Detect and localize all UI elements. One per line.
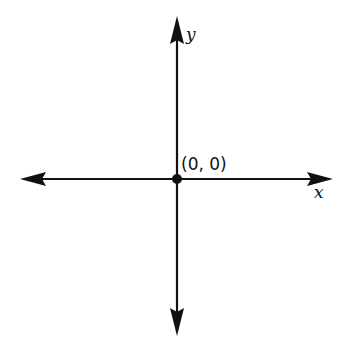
y-axis-up-arrow-icon	[170, 16, 184, 44]
coordinate-plane: y x (0, 0)	[0, 0, 349, 349]
y-axis-label: y	[185, 24, 196, 44]
origin-dot	[172, 174, 182, 184]
origin-label: (0, 0)	[181, 154, 227, 174]
axes-svg: y x (0, 0)	[0, 0, 349, 349]
y-axis-down-arrow-icon	[170, 308, 184, 336]
x-axis-label: x	[314, 182, 324, 202]
